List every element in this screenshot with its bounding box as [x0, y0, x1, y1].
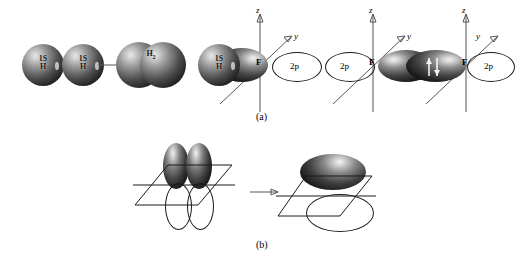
hydrogen-sphere-3: 1S H [198, 44, 240, 86]
hydrogen-sphere-1-label: 1S H [22, 55, 64, 72]
pi-cloud-lower [306, 194, 374, 232]
hydrogen-sphere-1: 1S H [22, 44, 64, 86]
axis-label-y-1: y [294, 32, 298, 41]
electron-spin-arrows-icon [424, 56, 454, 80]
h2-label: H2 [128, 50, 174, 60]
orbital-label-2p-2: 2p [340, 62, 349, 71]
p-lobe-lower-right [187, 183, 214, 230]
hydrogen-sphere-3-label: 1S H [198, 55, 240, 72]
orbital-overlap-figure: 1S H 1S H H2 [0, 0, 519, 258]
center-atom-label-1: F [256, 58, 262, 67]
panel-b-caption: (b) [256, 240, 268, 250]
outline-lobe-2 [325, 52, 375, 82]
panel-a-caption: (a) [256, 112, 267, 122]
axis-label-z-3: z [462, 6, 466, 15]
axis-label-z-2: z [369, 6, 373, 15]
orbital-label-2p-3: 2p [484, 62, 493, 71]
orbital-label-2p-1: 2p [290, 62, 299, 71]
axis-label-y-3: y [476, 32, 480, 41]
axis-label-z-1: z [256, 6, 260, 15]
center-atom-label-2: F [369, 58, 375, 67]
